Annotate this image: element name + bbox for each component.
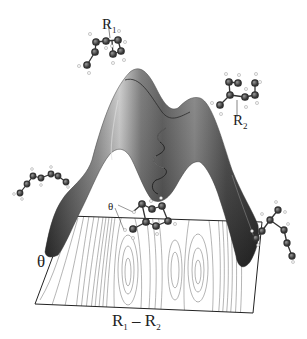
x-axis-label: R1 – R2 xyxy=(112,311,161,332)
theta-bond-label: θ xyxy=(108,200,113,212)
molecule-left-chain xyxy=(13,166,70,201)
molecule-r2 xyxy=(210,72,261,117)
r1-label: R1 xyxy=(102,16,117,35)
pes-figure xyxy=(0,0,307,339)
theta-axis-label: θ xyxy=(37,252,45,272)
r2-label: R2 xyxy=(233,112,248,131)
